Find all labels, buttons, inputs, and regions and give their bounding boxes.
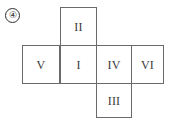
- net-cell-label: V: [37, 59, 46, 71]
- net-cell-label: I: [76, 59, 80, 71]
- net-cell-label: III: [108, 95, 121, 107]
- net-cell-top: II: [60, 7, 97, 46]
- net-cell-row1-col0: V: [22, 45, 60, 84]
- circled-number-four-icon: ④: [5, 8, 20, 23]
- cube-net-figure: ④ II V I IV VI III: [0, 0, 169, 123]
- net-cell-label: IV: [107, 59, 120, 71]
- net-cell-row1-col1: I: [60, 45, 97, 84]
- net-cell-bottom: III: [96, 83, 132, 118]
- net-cell-row1-col3: VI: [131, 45, 164, 84]
- net-cell-label: VI: [141, 59, 154, 71]
- net-cell-label: II: [74, 21, 82, 33]
- net-cell-row1-col2: IV: [96, 45, 132, 84]
